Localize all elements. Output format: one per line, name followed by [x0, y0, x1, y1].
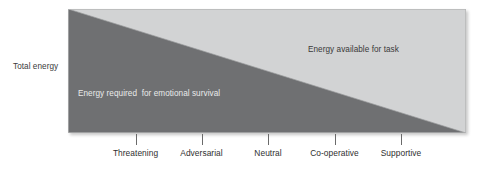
y-axis-caption: Total energy: [13, 61, 69, 72]
category-tick-label-2: Neutral: [254, 147, 281, 159]
category-tick-1: [202, 134, 203, 145]
category-tick-2: [268, 134, 269, 145]
plot-panel: [68, 9, 466, 133]
category-tick-0: [136, 134, 137, 145]
category-tick-label-0: Threatening: [113, 147, 158, 159]
category-tick-3: [335, 134, 336, 145]
energy-axis-diagram: Total energy Energy required for emotion…: [0, 0, 481, 170]
category-tick-label-1: Adversarial: [180, 147, 222, 159]
category-tick-label-4: Supportive: [381, 147, 422, 159]
category-tick-label-3: Co-operative: [310, 147, 359, 159]
category-tick-4: [401, 134, 402, 145]
panel-regions-svg: [68, 9, 466, 133]
lower-region-label: Energy required for emotional survival: [78, 88, 220, 99]
upper-region-label: Energy available for task: [308, 44, 399, 55]
